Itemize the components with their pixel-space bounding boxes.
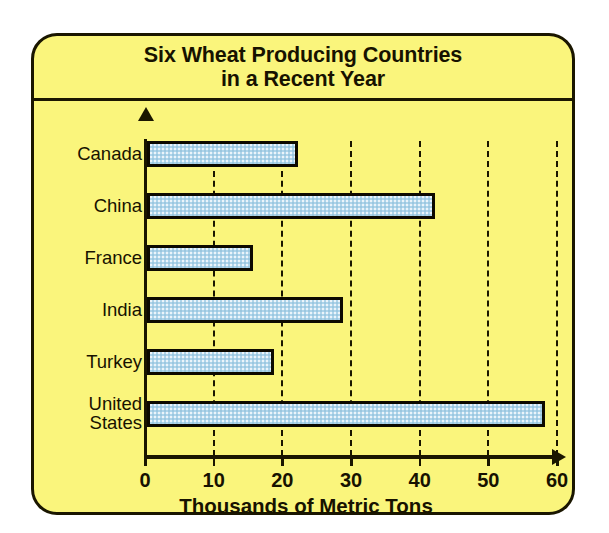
category-label-canada: Canada	[0, 144, 142, 163]
xtick-label-10: 10	[191, 469, 237, 492]
bar-canada	[147, 141, 298, 167]
bar-turkey	[147, 349, 274, 375]
bar-china	[147, 193, 435, 219]
gridline-60	[556, 141, 558, 456]
xtick-0	[144, 455, 147, 466]
category-label-china: China	[0, 196, 142, 215]
x-axis-title: Thousands of Metric Tons	[34, 494, 578, 518]
bar-united-states	[147, 401, 545, 427]
xtick-30	[350, 455, 353, 466]
xtick-10	[213, 455, 216, 466]
bar-france	[147, 245, 253, 271]
chart-card: Six Wheat Producing Countries in a Recen…	[31, 33, 575, 515]
xtick-50	[487, 455, 490, 466]
xtick-label-40: 40	[397, 469, 443, 492]
xtick-label-60: 60	[534, 469, 580, 492]
xtick-label-50: 50	[465, 469, 511, 492]
category-label-united-states: United States	[0, 394, 142, 433]
chart-title-block: Six Wheat Producing Countries in a Recen…	[34, 36, 572, 101]
xtick-label-20: 20	[259, 469, 305, 492]
xtick-40	[419, 455, 422, 466]
xtick-label-30: 30	[328, 469, 374, 492]
category-label-france: France	[0, 248, 142, 267]
xtick-60	[556, 455, 559, 466]
category-label-india: India	[0, 300, 142, 319]
page-title: Six Wheat Producing Countries in a Recen…	[144, 43, 462, 91]
bar-india	[147, 297, 343, 323]
plot-area: Canada China France India Turkey United …	[34, 101, 578, 515]
category-label-turkey: Turkey	[0, 352, 142, 371]
xtick-20	[281, 455, 284, 466]
y-axis-arrow-icon	[138, 107, 154, 121]
x-axis-arrow-icon	[552, 449, 566, 465]
xtick-label-0: 0	[122, 469, 168, 492]
